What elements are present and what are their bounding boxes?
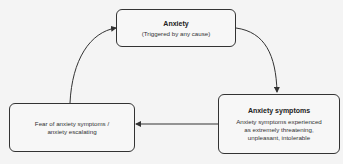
node-anxiety: Anxiety (Triggered by any cause) xyxy=(116,9,236,47)
node-symptoms-line-2: as extremely threatening, xyxy=(244,126,313,134)
node-anxiety-title: Anxiety xyxy=(163,19,188,28)
node-fear-line-2: anxiety escalating xyxy=(47,128,96,136)
node-symptoms-line-1: Anxiety symptoms experienced xyxy=(236,118,322,126)
node-symptoms-title: Anxiety symptoms xyxy=(248,106,310,115)
arrow-anxiety-to-symptoms xyxy=(236,28,277,92)
node-fear: Fear of anxiety symptoms / anxiety escal… xyxy=(9,103,135,152)
node-anxiety-symptoms: Anxiety symptoms Anxiety symptoms experi… xyxy=(218,94,340,154)
node-fear-line-1: Fear of anxiety symptoms / xyxy=(35,120,109,128)
node-symptoms-line-3: unpleasant, intolerable xyxy=(248,134,310,142)
node-anxiety-text: (Triggered by any cause) xyxy=(142,30,211,38)
arrow-fear-to-anxiety xyxy=(70,28,116,103)
